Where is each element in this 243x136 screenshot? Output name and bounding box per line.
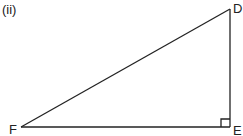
vertex-label-f: F <box>9 123 17 136</box>
side-fd <box>21 9 230 127</box>
vertex-label-e: E <box>233 124 242 136</box>
part-label: (ii) <box>2 3 16 16</box>
right-angle-marker-icon <box>221 119 230 127</box>
vertex-label-d: D <box>233 2 242 15</box>
triangle-diagram <box>0 0 243 136</box>
